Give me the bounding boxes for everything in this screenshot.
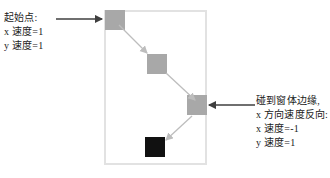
start-annotation-line-3: y 速度=1 — [4, 39, 43, 53]
bounce-annotation-line-4: y 速度=1 — [256, 136, 328, 150]
start-point-annotation: 起始点: x 速度=1 y 速度=1 — [4, 11, 43, 53]
edge-bounce-annotation: 碰到窗体边缘, x 方向速度反向: x 速度=-1 y 速度=1 — [256, 94, 328, 150]
ball-at-edge — [187, 95, 207, 115]
ball-start — [105, 10, 125, 30]
diagram-canvas: 起始点: x 速度=1 y 速度=1 碰到窗体边缘, x 方向速度反向: x 速… — [0, 0, 330, 178]
start-annotation-line-2: x 速度=1 — [4, 25, 43, 39]
bounce-annotation-line-1: 碰到窗体边缘, — [256, 94, 328, 108]
start-annotation-line-1: 起始点: — [4, 11, 43, 25]
ball-step-2 — [147, 54, 167, 74]
bounce-annotation-line-2: x 方向速度反向: — [256, 108, 328, 122]
bounce-annotation-line-3: x 速度=-1 — [256, 122, 328, 136]
ball-after-bounce — [145, 137, 165, 157]
